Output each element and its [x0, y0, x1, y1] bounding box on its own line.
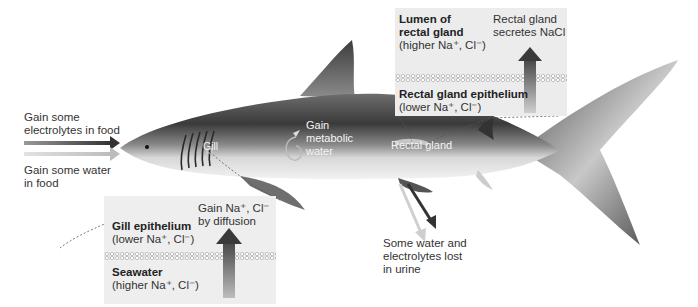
water-arrow [24, 152, 110, 156]
urine-label: Some water and electrolytes lost in urin… [383, 237, 467, 276]
metabolic-water-label: Gain metabolic water [306, 119, 353, 158]
gill-epithelium-label: Gill epithelium (lower Na⁺, Cl⁻) [112, 220, 194, 246]
lumen-label: Lumen of rectal gland (higher Na⁺, Cl⁻) [399, 13, 486, 52]
electrolytes-food-label: Gain some electrolytes in food [24, 111, 120, 137]
rectal-gland-membrane [395, 74, 567, 82]
rectal-epithelium-label: Rectal gland epithelium (lower Na⁺, Cl⁻) [399, 88, 528, 114]
gill-membrane [104, 252, 276, 260]
water-food-label: Gain some water in food [24, 164, 111, 190]
gill-label: Gill [203, 140, 218, 153]
secretes-label: Rectal gland secretes NaCl [493, 13, 565, 39]
seawater-label: Seawater (higher Na⁺, Cl⁻) [112, 266, 199, 292]
electrolytes-arrow [24, 141, 110, 145]
diffusion-arrow [216, 228, 242, 244]
secretion-arrow [518, 47, 542, 61]
rectal-gland-label: Rectal gland [391, 139, 452, 152]
dorsal-fin [300, 40, 355, 98]
diffusion-label: Gain Na⁺, Cl⁻ by diffusion [198, 202, 269, 228]
diffusion-arrow-shaft [223, 244, 235, 298]
